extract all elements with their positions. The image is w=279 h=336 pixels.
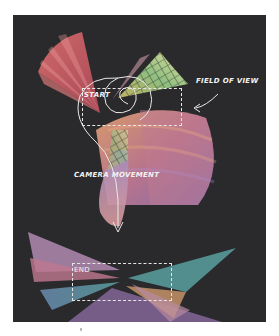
start-label: START [84, 91, 110, 99]
field-of-view-label: FIELD OF VIEW [196, 77, 258, 85]
camera-movement-label: CAMERA MOVEMENT [74, 171, 159, 179]
stray-mark [80, 328, 82, 331]
end-label: END [74, 266, 90, 274]
illustration-panel: START END FIELD OF VIEW CAMERA MOVEMENT [13, 15, 266, 322]
fov-arrow [194, 94, 218, 112]
